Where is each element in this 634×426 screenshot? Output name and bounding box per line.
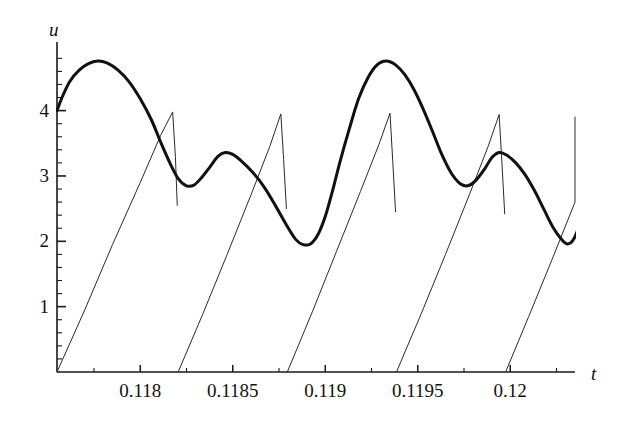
y-tick-label: 2 [31, 230, 49, 252]
y-tick-label: 3 [31, 165, 49, 187]
chart-plot-svg [0, 0, 634, 426]
x-tick-label: 0.1195 [392, 380, 444, 402]
x-tick-label: 0.1185 [207, 380, 259, 402]
x-axis-label: t [591, 363, 596, 385]
bold-curve-path [57, 61, 603, 245]
x-tick-label: 0.12 [494, 380, 527, 402]
sawtooth-segment-3 [396, 115, 504, 372]
x-tick-label: 0.119 [304, 380, 346, 402]
y-tick-label: 4 [31, 100, 49, 122]
sawtooth-segment-4 [506, 117, 575, 372]
y-axis-label: u [49, 19, 59, 41]
series-bold-oscillation-curve [57, 61, 603, 245]
chart-figure: u t 0.1180.11850.1190.11950.121234 [0, 0, 634, 426]
sawtooth-segment-0 [57, 112, 177, 372]
y-tick-label: 1 [31, 296, 49, 318]
series-sawtooth-thin-curve [57, 112, 575, 372]
x-tick-label: 0.118 [119, 380, 161, 402]
